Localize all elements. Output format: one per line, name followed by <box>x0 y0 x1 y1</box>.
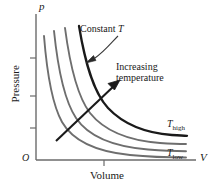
t-low-curve-label: Tlow <box>167 148 183 161</box>
constant-t-annotation: Constant T <box>80 24 124 35</box>
constant-t-annotation-text: Constant <box>80 23 118 34</box>
isotherm-curve-2 <box>54 31 186 151</box>
constant-t-annotation-symbol: T <box>118 23 124 34</box>
t-high-curve-label: Thigh <box>167 119 185 132</box>
constant-t-arrow <box>86 36 118 63</box>
increasing-temperature-line-2: temperature <box>116 73 164 84</box>
pv-diagram-figure: p V O Pressure Volume Constant T Increas… <box>0 0 214 191</box>
y-axis-title: Pressure <box>10 52 22 116</box>
increasing-temperature-annotation: Increasing temperature <box>116 62 164 83</box>
x-axis-symbol: V <box>200 152 207 164</box>
x-axis-title: Volume <box>62 170 152 182</box>
increasing-temperature-line-1: Increasing <box>116 62 164 73</box>
isotherm-curves <box>44 26 187 158</box>
constant-t-arrow-head <box>86 56 96 64</box>
origin-label: O <box>22 153 29 164</box>
t-low-subscript: low <box>173 153 184 161</box>
constant-t-arrow-shaft <box>95 36 118 58</box>
t-high-subscript: high <box>173 124 185 132</box>
y-axis-symbol: p <box>39 1 45 13</box>
